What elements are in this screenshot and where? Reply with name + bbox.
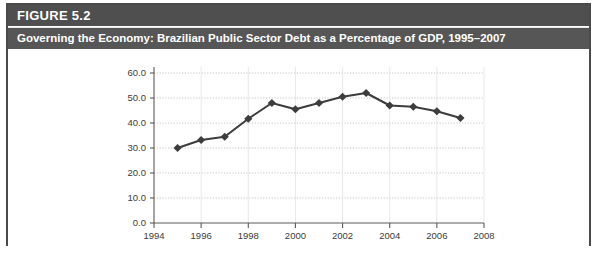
y-axis-tick-label: 40.0	[128, 117, 147, 128]
figure-number-label: FIGURE 5.2	[17, 8, 91, 23]
x-gridlines-group	[201, 67, 484, 223]
line-chart: 60.050.040.030.020.010.00.0 199419961998…	[8, 50, 589, 246]
data-point-marker	[456, 114, 464, 122]
y-axis-tick-label: 50.0	[128, 92, 147, 103]
y-axis-tick-labels: 60.050.040.030.020.010.00.0	[128, 67, 147, 228]
x-axis-tick-label: 1994	[143, 230, 164, 241]
x-axis-tick-label: 2000	[285, 230, 306, 241]
y-axis-tick-label: 60.0	[128, 67, 147, 78]
data-point-marker	[338, 93, 346, 101]
x-axis-tick-label: 2006	[426, 230, 447, 241]
y-axis-tick-label: 20.0	[128, 167, 147, 178]
y-axis-tick-label: 0.0	[133, 217, 146, 228]
data-point-marker	[409, 103, 417, 111]
gridlines-group	[154, 73, 484, 198]
axes-group	[154, 67, 484, 223]
figure-title-label: Governing the Economy: Brazilian Public …	[17, 32, 506, 44]
data-point-marker	[173, 144, 181, 152]
x-axis-tick-labels: 19941996199820002002200420062008	[143, 230, 494, 241]
y-tick-marks-group	[150, 73, 154, 223]
x-axis-tick-label: 2002	[332, 230, 353, 241]
data-point-marker	[433, 107, 441, 115]
data-point-marker	[291, 105, 299, 113]
figure-card: FIGURE 5.2 Governing the Economy: Brazil…	[6, 3, 591, 246]
x-axis-tick-label: 1998	[238, 230, 259, 241]
data-point-marker	[197, 136, 205, 144]
figure-title-bar: Governing the Economy: Brazilian Public …	[8, 27, 589, 49]
chart-plot-region: 60.050.040.030.020.010.00.0 199419961998…	[8, 50, 589, 246]
data-point-marker	[386, 101, 394, 109]
figure-number-bar: FIGURE 5.2	[8, 5, 589, 26]
y-axis-tick-label: 10.0	[128, 192, 147, 203]
x-axis-tick-label: 2004	[379, 230, 400, 241]
x-tick-marks-group	[154, 223, 484, 228]
x-axis-tick-label: 1996	[191, 230, 212, 241]
data-point-marker	[315, 99, 323, 107]
x-axis-tick-label: 2008	[473, 230, 494, 241]
data-point-marker	[362, 89, 370, 97]
y-axis-tick-label: 30.0	[128, 142, 147, 153]
